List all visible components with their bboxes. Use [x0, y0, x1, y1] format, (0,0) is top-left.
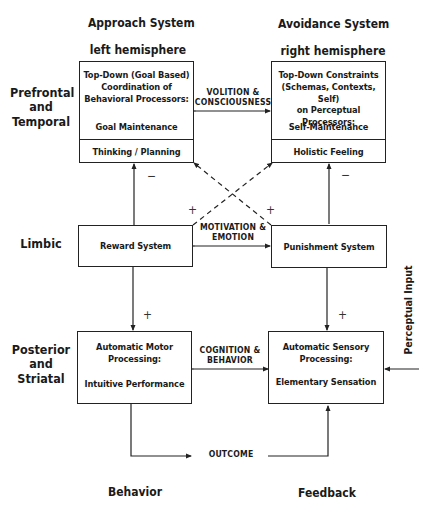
inhibit-sign-left: −	[147, 169, 156, 183]
motivation-emotion-label: MOTIVATION & EMOTION	[194, 223, 272, 243]
box-line: Top-Down Constraints	[272, 69, 385, 81]
elementary-sensation-label: Elementary Sensation	[269, 376, 383, 388]
holistic-feeling-label: Holistic Feeling	[272, 146, 385, 158]
sensory-processing-box: Automatic Sensory Processing: Elementary…	[268, 331, 384, 404]
reward-system-label: Reward System	[79, 240, 192, 252]
box-divider	[272, 139, 385, 140]
cognition-behavior-label: COGNITION & BEHAVIOR	[192, 346, 268, 366]
excite-sign-lower-left: +	[143, 308, 152, 322]
inhibit-sign-right: −	[341, 168, 350, 182]
box-line: Automatic Sensory	[269, 341, 383, 353]
punishment-system-label: Punishment System	[272, 241, 386, 253]
behavior-footer: Behavior	[100, 486, 170, 500]
box-line: Processing:	[78, 353, 191, 365]
box-line: Top-Down (Goal Based)	[80, 69, 193, 81]
volition-consciousness-label: VOLITION & CONSCIOUSNESS	[194, 88, 272, 108]
intuitive-performance-label: Intuitive Performance	[78, 378, 191, 390]
excite-sign-lower-right: +	[338, 308, 347, 322]
connector-line: CONSCIOUSNESS	[194, 98, 272, 108]
self-maintenance-box: Top-Down Constraints (Schemas, Contexts,…	[271, 61, 386, 163]
perceptual-input-label: Perceptual Input	[402, 260, 414, 360]
connector-line: BEHAVIOR	[192, 356, 268, 366]
box-line: Processing:	[269, 353, 383, 365]
box-line: (Schemas, Contexts, Self)	[272, 81, 385, 105]
reward-system-box: Reward System	[78, 225, 193, 267]
box-line: Automatic Motor	[78, 341, 191, 353]
punishment-system-box: Punishment System	[271, 225, 387, 268]
excite-sign-cross-left: +	[188, 203, 197, 217]
excite-sign-cross-right: +	[266, 203, 275, 217]
box-divider	[80, 139, 193, 140]
outcome-label: OUTCOME	[196, 450, 266, 460]
goal-maintenance-box: Top-Down (Goal Based) Coordination of Be…	[79, 61, 194, 163]
box-line: Coordination of	[80, 81, 193, 93]
thinking-planning-label: Thinking / Planning	[80, 146, 193, 158]
goal-maintenance-label: Goal Maintenance	[80, 121, 193, 133]
motor-processing-box: Automatic Motor Processing: Intuitive Pe…	[77, 331, 192, 404]
connector-line: EMOTION	[194, 233, 272, 243]
box-line: Behavioral Processors:	[80, 93, 193, 105]
feedback-footer: Feedback	[292, 487, 362, 501]
self-maintenance-label: Self-Maintenance	[272, 121, 385, 133]
